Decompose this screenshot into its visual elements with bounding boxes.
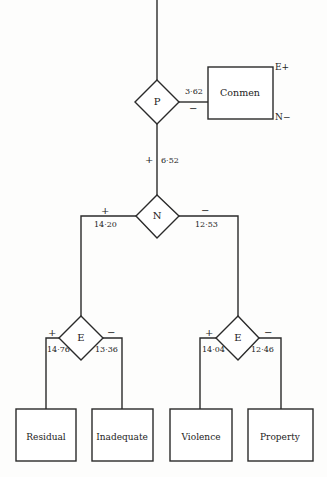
edge-n-right (179, 216, 238, 316)
edge-p-conmen-sign: − (189, 104, 197, 114)
edge-eleft-minus-value: 13·36 (95, 346, 118, 354)
edge-n-left-sign: + (101, 206, 109, 216)
edge-n-right-value: 12·53 (195, 221, 218, 229)
node-p-label: P (154, 97, 161, 107)
conmen-tag-n-minus: N− (275, 113, 290, 122)
node-e-left-label: E (77, 333, 84, 343)
edge-eright-plus-sign: + (205, 328, 213, 338)
box-conmen-label: Conmen (220, 88, 260, 98)
box-inadequate-label: Inadequate (96, 433, 148, 442)
edge-p-n-value: 6·52 (161, 157, 179, 165)
decision-tree-diagram: P N E E Conmen E+ N− Residual Inadequate… (0, 0, 327, 477)
box-violence-label: Violence (181, 433, 220, 442)
edge-eleft-plus-value: 14·76 (47, 346, 70, 354)
box-residual-label: Residual (26, 433, 65, 442)
edge-eright-minus-value: 12·46 (251, 346, 274, 354)
node-n-label: N (153, 211, 162, 221)
edge-p-conmen-value: 3·62 (185, 88, 203, 96)
edge-n-left-value: 14·20 (94, 221, 117, 229)
edge-eleft-minus-sign: − (107, 328, 115, 338)
edge-n-right-sign: − (201, 206, 209, 216)
edge-eright-plus-value: 14·04 (202, 346, 225, 354)
edge-n-left (81, 216, 136, 316)
node-e-right-label: E (234, 333, 241, 343)
edge-eleft-plus-sign: + (48, 328, 56, 338)
edge-p-n-sign: + (145, 155, 153, 165)
conmen-tag-e-plus: E+ (275, 63, 289, 72)
edge-eright-minus-sign: − (264, 328, 272, 338)
box-property-label: Property (260, 433, 300, 442)
